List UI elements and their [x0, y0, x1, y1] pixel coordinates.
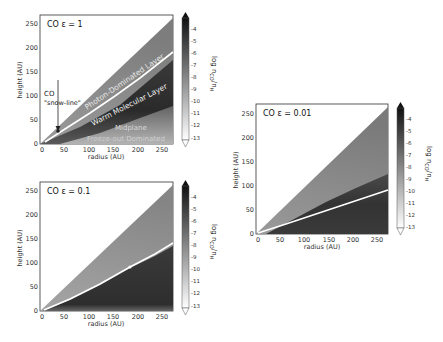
svg-text:-13: -13 — [191, 303, 200, 309]
svg-text:50: 50 — [276, 236, 284, 244]
svg-text:150: 150 — [26, 235, 38, 243]
panel-title: CO ε = 0.1 — [47, 187, 90, 196]
svg-text:200: 200 — [26, 44, 38, 52]
svg-text:-4: -4 — [406, 116, 412, 122]
panel-title: CO ε = 0.01 — [263, 109, 311, 118]
svg-text:-5: -5 — [191, 206, 197, 212]
svg-text:200: 200 — [132, 313, 144, 321]
svg-text:-12: -12 — [191, 290, 200, 296]
svg-text:-7: -7 — [191, 62, 197, 68]
x-axis-label: radius (AU) — [88, 153, 124, 161]
chart-co-eps-0-01: CO ε = 0.01 0 50 100 150 200 250 0 50 10… — [216, 90, 443, 260]
x-axis-label: radius (AU) — [304, 243, 340, 251]
svg-text:-11: -11 — [191, 110, 200, 116]
svg-text:200: 200 — [132, 146, 144, 154]
svg-text:-9: -9 — [406, 176, 412, 182]
y-axis-ticks: 0 50 100 150 200 250 — [26, 20, 38, 148]
svg-text:0: 0 — [34, 140, 38, 148]
svg-text:100: 100 — [242, 182, 254, 190]
svg-text:-11: -11 — [406, 200, 415, 206]
annotation-midplane: Midplane — [115, 124, 147, 132]
x-axis-label: radius (AU) — [88, 320, 124, 328]
svg-text:-6: -6 — [406, 140, 412, 146]
chart-co-eps-1: CO "snow-line" Photon-Dominated Layer Wa… — [0, 0, 220, 170]
svg-text:100: 100 — [26, 92, 38, 100]
svg-text:-7: -7 — [406, 152, 412, 158]
svg-text:-8: -8 — [191, 74, 197, 80]
svg-text:100: 100 — [26, 259, 38, 267]
svg-text:-12: -12 — [406, 212, 415, 218]
svg-text:-10: -10 — [191, 98, 200, 104]
colorbar-label: log nCO/nH — [209, 56, 218, 92]
svg-text:250: 250 — [242, 110, 254, 118]
svg-text:0: 0 — [250, 230, 254, 238]
svg-text:250: 250 — [156, 146, 168, 154]
svg-text:50: 50 — [60, 146, 68, 154]
colorbar: -4 -5 -6 -7 -8 -9 -10 -11 -12 -13 log nC… — [397, 102, 433, 235]
panel-co-eps-0-01: CO ε = 0.01 0 50 100 150 200 250 0 50 10… — [216, 90, 443, 260]
svg-text:50: 50 — [30, 283, 38, 291]
y-axis-label: height (AU) — [16, 61, 24, 98]
colorbar: -4 -5 -6 -7 -8 -9 -10 -11 -12 -13 log nC… — [182, 12, 218, 147]
panel-co-eps-0-1: CO ε = 0.1 0 50 100 150 200 250 0 50 100… — [0, 168, 220, 342]
colorbar: -4 -5 -6 -7 -8 -9 -10 -11 -12 -13 log nC… — [182, 180, 218, 315]
svg-text:250: 250 — [371, 236, 383, 244]
svg-text:-7: -7 — [191, 230, 197, 236]
svg-text:200: 200 — [26, 211, 38, 219]
svg-text:250: 250 — [26, 20, 38, 28]
svg-text:200: 200 — [347, 236, 359, 244]
svg-text:200: 200 — [242, 134, 254, 142]
svg-text:-5: -5 — [406, 128, 412, 134]
svg-text:-4: -4 — [191, 194, 197, 200]
svg-text:-6: -6 — [191, 218, 197, 224]
panel-title: CO ε = 1 — [47, 20, 83, 29]
svg-text:-6: -6 — [191, 50, 197, 56]
y-axis-ticks: 0 50 100 150 200 250 — [242, 110, 254, 238]
svg-text:150: 150 — [26, 68, 38, 76]
svg-text:-10: -10 — [191, 266, 200, 272]
y-axis-ticks: 0 50 100 150 200 250 — [26, 187, 38, 315]
svg-text:0: 0 — [40, 146, 44, 154]
svg-text:50: 50 — [60, 313, 68, 321]
svg-text:-9: -9 — [191, 254, 197, 260]
panel-co-eps-1: CO "snow-line" Photon-Dominated Layer Wa… — [0, 0, 220, 170]
svg-text:-12: -12 — [191, 122, 200, 128]
svg-text:-11: -11 — [191, 278, 200, 284]
chart-co-eps-0-1: CO ε = 0.1 0 50 100 150 200 250 0 50 100… — [0, 168, 220, 342]
svg-text:150: 150 — [242, 158, 254, 166]
svg-text:-13: -13 — [406, 224, 415, 230]
annotation-freeze-out: Freeze-out Dominated — [87, 135, 165, 143]
y-axis-label: height (AU) — [16, 229, 24, 266]
svg-text:250: 250 — [26, 187, 38, 195]
svg-text:-8: -8 — [406, 164, 412, 170]
svg-text:-5: -5 — [191, 38, 197, 44]
svg-text:250: 250 — [156, 313, 168, 321]
colorbar-label: log nCO/nH — [424, 146, 433, 182]
svg-text:50: 50 — [30, 116, 38, 124]
svg-text:-10: -10 — [406, 188, 415, 194]
svg-text:-8: -8 — [191, 242, 197, 248]
svg-text:0: 0 — [256, 236, 260, 244]
annotation-snow-line: "snow-line" — [44, 99, 81, 107]
y-axis-label: height (AU) — [232, 151, 240, 188]
svg-text:50: 50 — [246, 206, 254, 214]
svg-text:-13: -13 — [191, 135, 200, 141]
svg-text:0: 0 — [40, 313, 44, 321]
svg-text:0: 0 — [34, 307, 38, 315]
annotation-co: CO — [44, 90, 55, 98]
svg-text:-9: -9 — [191, 86, 197, 92]
svg-text:-4: -4 — [191, 26, 197, 32]
